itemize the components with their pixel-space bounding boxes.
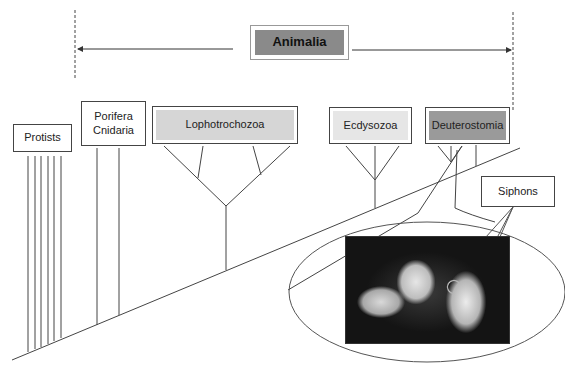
ecdysozoa-box: Ecdysozoa [329,107,412,144]
deuterostomia-label: Deuterostomia [429,111,506,140]
trunk-lower [12,240,300,360]
lophotrochozoa-box: Lophotrochozoa [152,106,298,144]
phylogeny-diagram: Animalia Protists Porifera Cnidaria Loph… [0,0,565,374]
porifera-cnidaria-box: Porifera Cnidaria [81,101,146,146]
protists-label: Protists [24,131,61,145]
animalia-label: Animalia [255,30,344,55]
porifera-cnidaria-label: Porifera Cnidaria [93,110,134,138]
ecdysozoa-label: Ecdysozoa [333,111,408,140]
animalia-title: Animalia [250,25,349,60]
siphons-box: Siphons [481,176,555,207]
protists-box: Protists [13,124,72,152]
siphons-label: Siphons [498,185,538,199]
lophotrochozoa-label: Lophotrochozoa [156,110,294,140]
sea-squirt-photo [345,236,510,344]
deuterostomia-box: Deuterostomia [425,107,510,144]
